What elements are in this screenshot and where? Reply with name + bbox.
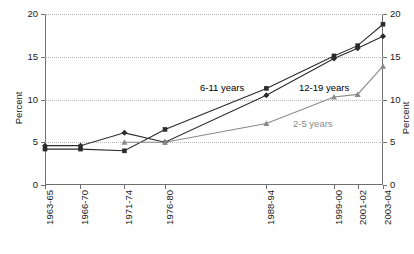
data-point-marker	[263, 120, 269, 126]
y-tick-mark	[383, 100, 387, 101]
x-tick-label: 2003-04	[382, 190, 393, 225]
data-point-marker	[380, 33, 386, 39]
x-tick-label: 1966-70	[79, 190, 90, 225]
data-point-marker	[121, 130, 127, 136]
y-tick-label: 5	[390, 137, 395, 147]
x-tick-label: 1971-74	[123, 190, 134, 225]
y-tick-label: 20	[27, 9, 38, 19]
chart-container: Percent Percent 0055101015152020 1963-65…	[0, 0, 414, 254]
x-tick-mark	[45, 185, 46, 189]
y-tick-label: 20	[390, 9, 401, 19]
y-tick-label: 10	[390, 95, 401, 105]
data-point-marker	[122, 149, 127, 154]
series-label-12-19-years: 12-19 years	[299, 83, 349, 93]
y-tick-label: 5	[33, 137, 38, 147]
x-tick-mark	[334, 185, 335, 189]
y-axis-title-left: Percent	[13, 92, 24, 125]
data-point-marker	[163, 127, 168, 132]
x-tick-label: 1999-00	[332, 190, 343, 225]
x-tick-label: 1988-94	[265, 190, 276, 225]
x-tick-mark	[80, 185, 81, 189]
plot-area: 0055101015152020	[45, 14, 383, 185]
y-axis-title-right: Percent	[400, 102, 411, 135]
y-tick-label: 0	[33, 180, 38, 190]
y-tick-label: 0	[390, 180, 395, 190]
x-tick-mark	[124, 185, 125, 189]
data-point-marker	[380, 63, 386, 69]
x-tick-mark	[383, 185, 384, 189]
series-plot	[45, 14, 383, 185]
x-tick-label: 1976-80	[163, 190, 174, 225]
y-tick-mark	[383, 14, 387, 15]
y-tick-label: 15	[390, 52, 401, 62]
x-tick-mark	[266, 185, 267, 189]
x-tick-mark	[358, 185, 359, 189]
data-point-marker	[381, 22, 386, 27]
data-point-marker	[263, 92, 269, 98]
y-tick-label: 15	[27, 52, 38, 62]
y-tick-mark	[383, 57, 387, 58]
data-point-marker	[264, 86, 269, 91]
y-tick-label: 10	[27, 95, 38, 105]
series-label-6-11-years: 6-11 years	[200, 83, 244, 93]
series-label-2-5-years: 2-5 years	[293, 119, 333, 129]
y-tick-mark	[383, 142, 387, 143]
x-tick-label: 1963-65	[44, 190, 55, 225]
x-tick-label: 2001-02	[356, 190, 367, 225]
x-tick-mark	[165, 185, 166, 189]
